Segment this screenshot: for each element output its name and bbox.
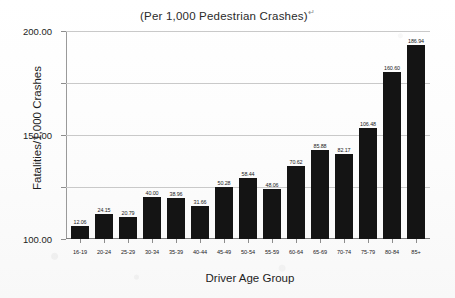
x-tick-mark xyxy=(368,239,369,243)
x-tick-label: 16-19 xyxy=(68,249,92,255)
x-tick-mark xyxy=(392,239,393,243)
x-tick-mark xyxy=(200,239,201,243)
bar-value-label: 31.66 xyxy=(194,199,207,205)
bar[interactable]: 160.60 xyxy=(383,72,401,239)
x-tick-mark xyxy=(80,239,81,243)
y-tick-label: 200.00 xyxy=(23,26,52,37)
bar-slot: 58.44 xyxy=(236,31,260,239)
bar[interactable]: 48.06 xyxy=(263,189,281,239)
x-tick-label: 25-29 xyxy=(116,249,140,255)
y-axis-title: Fatalities/1,000 Crashes xyxy=(31,33,43,223)
bar-slot: 40.00 xyxy=(140,31,164,239)
x-tick-mark xyxy=(152,239,153,243)
x-tick-labels: 16-1920-2425-2930-3435-3940-4445-4950-54… xyxy=(66,249,430,255)
x-tick-label: 40-44 xyxy=(188,249,212,255)
bar-series: 12.0624.1520.7940.0038.9631.6650.2858.44… xyxy=(66,31,430,239)
x-tick-label: 30-34 xyxy=(140,249,164,255)
x-tick-mark xyxy=(104,239,105,243)
y-tick-label: 100.00 xyxy=(23,234,52,245)
x-tick-label: 65-69 xyxy=(308,249,332,255)
y-tick-label: 150.00 xyxy=(23,130,52,141)
bar[interactable]: 31.66 xyxy=(191,206,209,239)
bar-slot: 31.66 xyxy=(188,31,212,239)
bar-slot: 85.88 xyxy=(308,31,332,239)
x-tick-marks xyxy=(66,239,430,243)
bar[interactable]: 50.28 xyxy=(215,187,233,239)
x-tick-label: 35-39 xyxy=(164,249,188,255)
x-tick-label: 85+ xyxy=(404,249,428,255)
bar[interactable]: 106.48 xyxy=(359,128,377,239)
bar-value-label: 106.48 xyxy=(360,121,376,127)
bar-slot: 48.06 xyxy=(260,31,284,239)
x-tick-label: 70-74 xyxy=(332,249,356,255)
x-tick-label: 80-84 xyxy=(380,249,404,255)
x-tick-mark xyxy=(344,239,345,243)
plot-area: 0.0050.00100.00150.00200.00 12.0624.1520… xyxy=(66,31,430,239)
bar[interactable]: 70.62 xyxy=(287,166,305,239)
x-tick-mark xyxy=(320,239,321,243)
bar[interactable]: 20.79 xyxy=(119,217,137,239)
bar[interactable]: 58.44 xyxy=(239,178,257,239)
bar-slot: 38.96 xyxy=(164,31,188,239)
bar-value-label: 70.62 xyxy=(290,159,303,165)
bar[interactable]: 40.00 xyxy=(143,197,161,239)
bar-slot: 70.62 xyxy=(284,31,308,239)
bar-value-label: 20.79 xyxy=(122,210,135,216)
bar-value-label: 58.44 xyxy=(242,171,255,177)
bar-value-label: 186.94 xyxy=(408,38,424,44)
x-tick-mark xyxy=(248,239,249,243)
bar-value-label: 50.28 xyxy=(218,180,231,186)
bar[interactable]: 12.06 xyxy=(71,226,89,239)
x-tick-label: 60-64 xyxy=(284,249,308,255)
bar-slot: 24.15 xyxy=(92,31,116,239)
x-tick-label: 55-59 xyxy=(260,249,284,255)
bar-slot: 20.79 xyxy=(116,31,140,239)
x-tick-mark xyxy=(176,239,177,243)
x-tick-label: 45-49 xyxy=(212,249,236,255)
bar-value-label: 82.17 xyxy=(338,147,351,153)
bar[interactable]: 24.15 xyxy=(95,214,113,239)
x-tick-label: 50-54 xyxy=(236,249,260,255)
bar-slot: 160.60 xyxy=(380,31,404,239)
x-axis-title: Driver Age Group xyxy=(60,272,440,284)
bar-slot: 12.06 xyxy=(68,31,92,239)
x-tick-mark xyxy=(296,239,297,243)
bar[interactable]: 38.96 xyxy=(167,198,185,239)
chart-title-text: (Per 1,000 Pedestrian Crashes) xyxy=(140,10,308,22)
chart-title: (Per 1,000 Pedestrian Crashes)↵ xyxy=(0,8,455,22)
bar-slot: 50.28 xyxy=(212,31,236,239)
x-tick-mark xyxy=(224,239,225,243)
bar-slot: 186.94 xyxy=(404,31,428,239)
bar-value-label: 38.96 xyxy=(170,191,183,197)
bar-value-label: 85.88 xyxy=(314,143,327,149)
bar-slot: 82.17 xyxy=(332,31,356,239)
x-tick-mark xyxy=(128,239,129,243)
title-marker-icon: ↵ xyxy=(308,8,315,17)
bar-value-label: 12.06 xyxy=(74,219,87,225)
x-tick-mark xyxy=(416,239,417,243)
bar[interactable]: 85.88 xyxy=(311,150,329,239)
bar-slot: 106.48 xyxy=(356,31,380,239)
bar[interactable]: 82.17 xyxy=(335,154,353,239)
bar-value-label: 40.00 xyxy=(146,190,159,196)
x-tick-label: 75-79 xyxy=(356,249,380,255)
bar-value-label: 24.15 xyxy=(98,207,111,213)
bar[interactable]: 186.94 xyxy=(407,45,425,239)
x-tick-label: 20-24 xyxy=(92,249,116,255)
chart-figure: (Per 1,000 Pedestrian Crashes)↵ Fataliti… xyxy=(0,0,455,298)
bar-value-label: 160.60 xyxy=(384,65,400,71)
x-tick-mark xyxy=(272,239,273,243)
bar-value-label: 48.06 xyxy=(266,182,279,188)
